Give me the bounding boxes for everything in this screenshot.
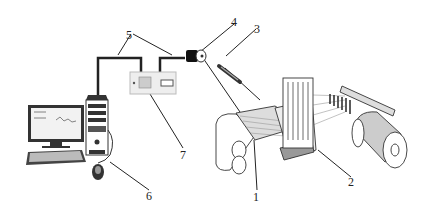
keyboard bbox=[26, 150, 86, 165]
camera-sensor bbox=[186, 50, 206, 62]
pc-tower bbox=[86, 95, 113, 163]
label-2: 2 bbox=[348, 176, 354, 188]
label-6: 6 bbox=[146, 190, 152, 202]
computer-monitor bbox=[28, 105, 84, 148]
diagram-canvas: 1 2 3 4 5 6 7 bbox=[0, 0, 431, 216]
label-5: 5 bbox=[126, 29, 132, 41]
label-1: 1 bbox=[253, 191, 259, 203]
label-4: 4 bbox=[231, 16, 237, 28]
controller-box bbox=[130, 72, 176, 94]
diagram-drawing bbox=[0, 0, 431, 216]
label-7: 7 bbox=[180, 149, 186, 161]
label-3: 3 bbox=[254, 23, 260, 35]
loom bbox=[216, 78, 407, 174]
cable-box-to-camera bbox=[160, 58, 185, 72]
